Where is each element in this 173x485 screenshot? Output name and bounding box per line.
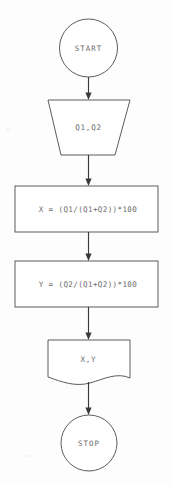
node-start-label: START	[75, 44, 103, 53]
edge-start-to-input-arrowhead	[85, 93, 91, 101]
node-input-label: Q1,Q2	[75, 123, 101, 132]
edge-calcx-to-calcy-arrowhead	[85, 254, 91, 262]
node-calcy-label: Y = (Q2/(Q1+Q2))*100	[39, 280, 138, 289]
flowchart-page: START Q1,Q2 X = (Q1/(Q1+Q2))*100 Y = (Q2…	[0, 0, 173, 485]
node-stop-label: STOP	[78, 439, 100, 448]
node-output-label: X,Y	[81, 355, 97, 364]
flowchart-canvas: START Q1,Q2 X = (Q1/(Q1+Q2))*100 Y = (Q2…	[0, 0, 173, 485]
node-calcx-label: X = (Q1/(Q1+Q2))*100	[39, 205, 138, 214]
edge-calcy-to-output-arrowhead	[85, 333, 91, 341]
edge-input-to-calcx-arrowhead	[85, 179, 91, 187]
edge-output-to-stop-arrowhead	[85, 408, 91, 416]
